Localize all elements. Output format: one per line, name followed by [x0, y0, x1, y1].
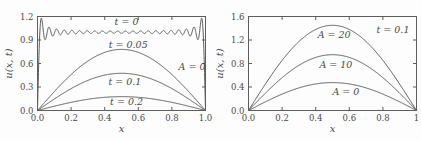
annotation: t = 0.1	[108, 76, 141, 87]
x-tick-label: 0.6	[343, 113, 357, 123]
annotation: t = 0.1	[377, 24, 410, 35]
plots-canvas: 0.00.20.40.60.81.00.00.30.60.91.2xu(x, t…	[0, 0, 421, 141]
x-tick-label: 0.4	[98, 113, 112, 123]
x-tick-label: 0.2	[64, 113, 78, 123]
annotation: A = 0	[331, 86, 359, 97]
annotation: A = 0	[178, 61, 206, 72]
y-axis-label: u(x, t)	[3, 48, 14, 78]
annotation: t = 0.05	[109, 39, 148, 50]
y-tick-label: 0.0	[20, 106, 34, 116]
x-tick-label: 0.8	[376, 113, 390, 123]
annotation: t = 0	[115, 16, 139, 27]
y-tick-label: 1.2	[231, 35, 245, 45]
y-tick-label: 1.2	[20, 12, 34, 22]
y-tick-label: 0.9	[20, 35, 34, 45]
y-tick-label: 0.4	[231, 82, 245, 92]
plot-right: 0.00.20.40.60.810.00.40.81.21.6xu(x, t)t…	[214, 12, 420, 134]
annotation: A = 10	[318, 59, 352, 70]
y-tick-label: 0.0	[231, 106, 245, 116]
x-tick-label: 1	[414, 113, 419, 123]
dual-plot-figure: 0.00.20.40.60.81.00.00.30.60.91.2xu(x, t…	[0, 0, 421, 141]
x-tick-label: 1.0	[199, 113, 213, 123]
y-tick-label: 0.3	[20, 82, 34, 92]
y-tick-label: 1.6	[231, 12, 245, 22]
annotation: A = 20	[317, 29, 351, 40]
x-tick-label: 0.6	[132, 113, 146, 123]
y-tick-label: 0.8	[231, 59, 245, 69]
y-axis-label: u(x, t)	[214, 48, 225, 78]
x-axis-label: x	[330, 123, 336, 134]
y-tick-label: 0.6	[20, 59, 34, 69]
plot-left: 0.00.20.40.60.81.00.00.30.60.91.2xu(x, t…	[3, 12, 213, 134]
x-tick-label: 0.8	[165, 113, 179, 123]
annotation: t = 0.2	[110, 96, 143, 107]
x-axis-label: x	[119, 123, 125, 134]
x-tick-label: 0.4	[309, 113, 323, 123]
x-tick-label: 0.2	[275, 113, 289, 123]
